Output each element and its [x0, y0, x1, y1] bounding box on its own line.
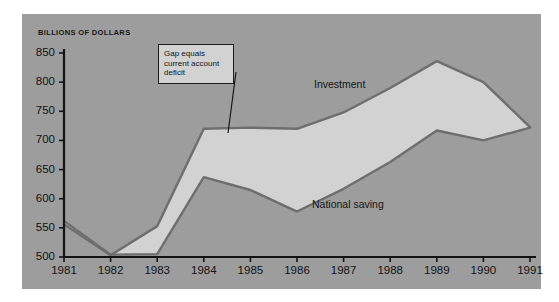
x-axis-tick-label: 1990: [463, 264, 503, 276]
gap-callout-box: Gap equals current account deficit: [158, 44, 234, 84]
gap-area-fill: [64, 61, 530, 255]
y-axis-tick-label: 500: [25, 250, 55, 262]
y-axis-unit-label: BILLIONS OF DOLLARS: [38, 28, 130, 37]
x-axis-tick-label: 1983: [137, 264, 177, 276]
x-axis-tick-label: 1982: [91, 264, 131, 276]
x-axis-tick-label: 1988: [370, 264, 410, 276]
series-label-national-saving: National saving: [312, 198, 384, 210]
x-axis-tick-label: 1981: [44, 264, 84, 276]
series-label-investment: Investment: [314, 78, 365, 90]
y-axis-tick-label: 650: [25, 163, 55, 175]
chart-plot-area: [0, 0, 559, 302]
y-axis-tick-label: 850: [25, 46, 55, 58]
x-axis-tick-label: 1991: [510, 264, 550, 276]
x-axis-tick-label: 1987: [324, 264, 364, 276]
gap-callout-line-3: deficit: [164, 68, 228, 78]
y-axis-tick-label: 600: [25, 192, 55, 204]
gap-callout-line-2: current account: [164, 59, 228, 69]
y-axis-tick-label: 750: [25, 104, 55, 116]
x-axis-tick-label: 1989: [417, 264, 457, 276]
y-axis-tick-label: 550: [25, 221, 55, 233]
gap-callout-line-1: Gap equals: [164, 49, 228, 59]
y-axis-tick-label: 800: [25, 75, 55, 87]
x-axis-tick-label: 1984: [184, 264, 224, 276]
y-axis-tick-label: 700: [25, 133, 55, 145]
chart-figure: BILLIONS OF DOLLARS 50055060065070075080…: [0, 0, 559, 302]
x-axis-tick-label: 1986: [277, 264, 317, 276]
x-axis-tick-label: 1985: [230, 264, 270, 276]
